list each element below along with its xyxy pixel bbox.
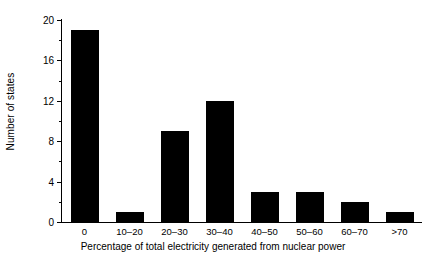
x-axis-tick-label: 40–50 (251, 226, 277, 237)
y-axis-tick-label: 20 (43, 15, 54, 26)
x-axis-tick-label: 60–70 (341, 226, 367, 237)
x-axis-tick-label: 50–60 (296, 226, 322, 237)
x-axis-tick-label: 0 (82, 226, 87, 237)
bar (296, 192, 324, 222)
y-axis-tick-label: 0 (48, 217, 54, 228)
bar (206, 101, 234, 222)
x-axis-title: Percentage of total electricity generate… (0, 241, 426, 252)
bar (386, 212, 414, 222)
histogram-figure: Number of states 048121620 010–2020–3030… (0, 0, 426, 263)
x-axis-tick-label: 20–30 (161, 226, 187, 237)
y-axis-tick-label: 8 (48, 136, 54, 147)
y-axis-tick-label: 12 (43, 95, 54, 106)
bar (341, 202, 369, 222)
plot-area (62, 20, 422, 222)
y-axis-tick-label: 4 (48, 176, 54, 187)
x-axis-tick-label: 30–40 (206, 226, 232, 237)
bar (251, 192, 279, 222)
bars-layer (62, 20, 422, 222)
y-axis-ticks: 048121620 (0, 0, 62, 223)
x-axis-line (61, 222, 422, 223)
bar (161, 131, 189, 222)
y-axis-tick-label: 16 (43, 55, 54, 66)
x-axis-tick-label: >70 (391, 226, 407, 237)
bar (116, 212, 144, 222)
bar (71, 30, 99, 222)
x-axis-tick-label: 10–20 (116, 226, 142, 237)
